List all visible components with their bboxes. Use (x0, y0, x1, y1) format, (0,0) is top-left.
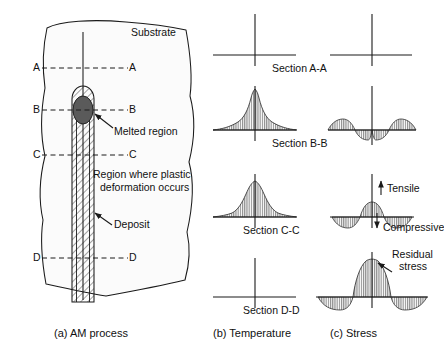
substrate-body (40, 21, 194, 296)
melted-region-label: Melted region (114, 125, 178, 137)
temperature-plot-CC (213, 174, 297, 228)
section-title-BB: Section B-B (272, 137, 327, 149)
plastic-region-label-line2: deformation occurs (100, 181, 189, 193)
section-title-CC: Section C-C (243, 224, 300, 236)
deposit-label: Deposit (114, 218, 150, 230)
section-marker-D-left: D (33, 251, 41, 263)
residual-stress-label-line2: stress (399, 260, 427, 272)
tensile-label: Tensile (387, 182, 420, 194)
temperature-plot-BB (213, 86, 297, 141)
section-marker-A-right: A (129, 61, 136, 73)
section-marker-C-right: C (129, 148, 137, 160)
section-title-AA: Section A-A (272, 62, 327, 74)
section-marker-B-right: B (129, 103, 136, 115)
section-marker-C-left: C (33, 148, 41, 160)
substrate-label: Substrate (131, 26, 176, 38)
stress-plot-AA (330, 14, 412, 66)
section-marker-A-left: A (33, 61, 40, 73)
plastic-region-label-line1: Region where plastic (93, 168, 190, 180)
section-marker-B-left: B (33, 103, 40, 115)
caption-panel-a: (a) AM process (54, 327, 128, 339)
temperature-plot-AA (213, 14, 296, 66)
caption-panel-b: (b) Temperature (213, 327, 291, 339)
section-marker-D-right: D (129, 251, 137, 263)
caption-panel-c: (c) Stress (330, 327, 377, 339)
stress-plot-BB (328, 86, 416, 145)
compressive-label: Compressive (383, 221, 444, 233)
temperature-plot-DD (213, 258, 296, 308)
section-title-DD: Section D-D (243, 304, 300, 316)
residual-stress-label-line1: Residual (392, 248, 433, 260)
